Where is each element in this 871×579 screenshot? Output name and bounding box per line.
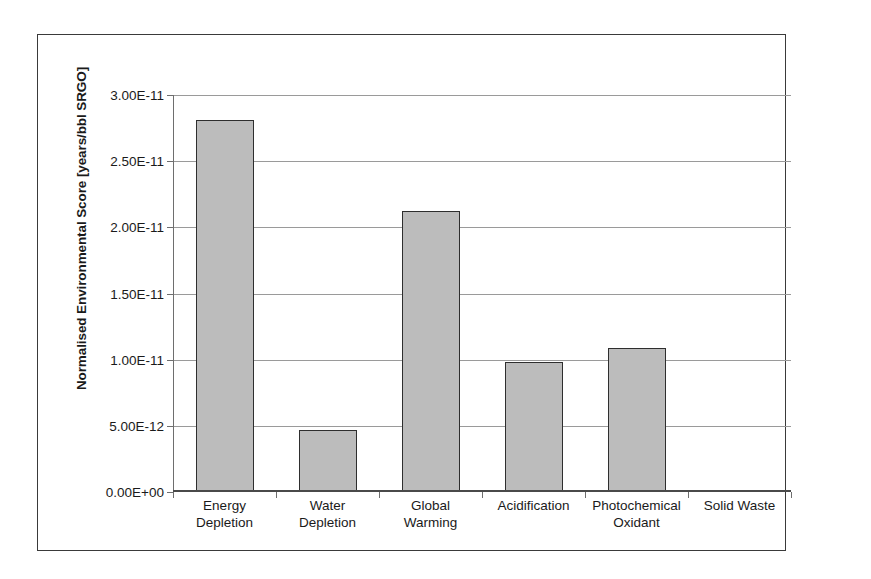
x-label-line: Depletion <box>276 514 379 531</box>
x-category-label: WaterDepletion <box>276 497 379 531</box>
x-label-line: Global <box>379 497 482 514</box>
x-tick-mark <box>791 492 792 498</box>
x-axis-line <box>173 490 791 492</box>
bar[interactable] <box>196 120 254 492</box>
x-label-line: Photochemical <box>585 497 688 514</box>
x-label-line: Depletion <box>173 514 276 531</box>
y-tick-label: 2.50E-11 <box>110 154 164 169</box>
bar-slot <box>482 95 585 492</box>
bar-slot <box>276 95 379 492</box>
y-tick-label: 0.00E+00 <box>106 485 164 500</box>
x-category-label: Solid Waste <box>688 497 791 514</box>
chart-figure-frame: Normalised Environmental Score [years/bb… <box>37 34 786 551</box>
x-category-label: PhotochemicalOxidant <box>585 497 688 531</box>
bar-series <box>173 95 791 492</box>
x-label-line: Energy <box>173 497 276 514</box>
x-label-line: Warming <box>379 514 482 531</box>
bar-slot <box>379 95 482 492</box>
x-label-line: Acidification <box>482 497 585 514</box>
y-tick-label: 3.00E-11 <box>110 88 164 103</box>
y-tick-label: 2.00E-11 <box>110 220 164 235</box>
x-label-line: Water <box>276 497 379 514</box>
y-tick-label: 1.00E-11 <box>110 352 164 367</box>
bar-slot <box>688 95 791 492</box>
bar[interactable] <box>299 430 357 492</box>
y-tick-label: 5.00E-12 <box>109 418 164 433</box>
y-tick-label: 1.50E-11 <box>110 286 164 301</box>
x-category-label: Acidification <box>482 497 585 514</box>
x-axis-labels: EnergyDepletionWaterDepletionGlobalWarmi… <box>173 497 791 549</box>
plot-area: 0.00E+005.00E-121.00E-111.50E-112.00E-11… <box>173 95 791 492</box>
bar[interactable] <box>608 348 666 492</box>
bar-slot <box>585 95 688 492</box>
x-label-line: Oxidant <box>585 514 688 531</box>
x-category-label: EnergyDepletion <box>173 497 276 531</box>
x-category-label: GlobalWarming <box>379 497 482 531</box>
bar-slot <box>173 95 276 492</box>
x-label-line: Solid Waste <box>688 497 791 514</box>
bar[interactable] <box>505 362 563 492</box>
bar[interactable] <box>402 211 460 492</box>
y-axis-title: Normalised Environmental Score [years/bb… <box>74 49 89 409</box>
y-axis-line <box>173 95 174 492</box>
